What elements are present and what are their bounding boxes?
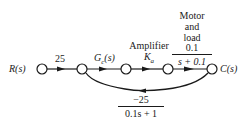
fraction-bar: [118, 106, 164, 107]
input-label: R(s): [9, 63, 26, 74]
gc-tail: (s): [104, 52, 115, 63]
motor-denominator: s + 0.1: [172, 56, 212, 67]
arrow-head-icon: [57, 67, 65, 72]
motor-transfer-function: 0.1 s + 0.1: [172, 42, 212, 67]
node-3: [121, 64, 131, 74]
motor-title-line1: Motor: [172, 10, 212, 21]
fraction-bar: [172, 54, 212, 55]
controller-gain-label: Gc(s): [94, 52, 115, 68]
arrow-head-icon: [142, 67, 150, 72]
arrow-head-icon: [184, 67, 194, 72]
feedback-transfer-function: −25 0.1s + 1: [118, 94, 164, 119]
ka-main: K: [144, 51, 151, 62]
output-label: C(s): [220, 63, 237, 74]
node-r: [37, 64, 47, 74]
feedback-denominator: 0.1s + 1: [118, 108, 164, 119]
node-2: [77, 64, 87, 74]
motor-numerator: 0.1: [172, 42, 212, 53]
ka-sub: a: [151, 57, 155, 65]
motor-title-line2: and: [172, 21, 212, 32]
feedback-numerator: −25: [118, 94, 164, 105]
gain-25-label: 25: [55, 53, 65, 64]
amplifier-title: Amplifier: [126, 40, 172, 51]
amplifier-gain-label: Ka: [139, 51, 159, 67]
feedback-branch: [86, 73, 208, 90]
arrow-head-icon: [138, 89, 146, 94]
